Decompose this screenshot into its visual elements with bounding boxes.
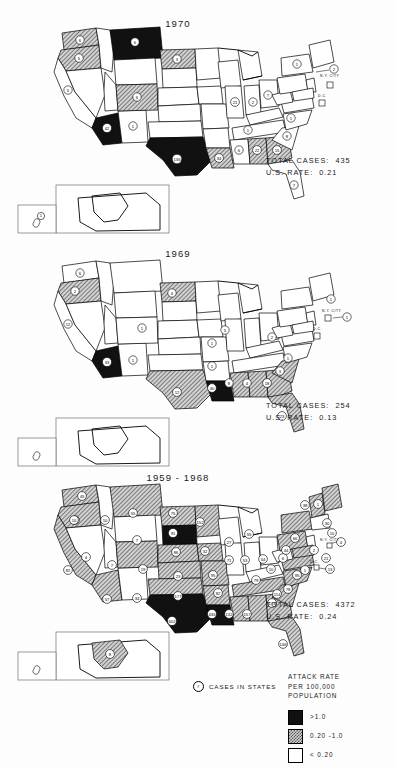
svg-text:79: 79 (254, 578, 259, 583)
svg-text:45: 45 (80, 494, 85, 499)
bubble-NV: 4 (82, 553, 91, 562)
bubble-NYC: 2 (330, 65, 338, 73)
legend-swatch-mid (288, 729, 303, 744)
dc-label: D.C. (318, 94, 327, 98)
bubble-AZ: 42 (102, 123, 111, 132)
bubble-AR: 82 (214, 589, 223, 598)
bubble-MN: 5 (221, 326, 229, 334)
bubble-NM: 1 (129, 122, 137, 130)
bubble-ID-marker: 10 (101, 516, 110, 525)
bubble-PA: 44 (282, 546, 291, 555)
svg-text:136: 136 (174, 157, 182, 162)
svg-text:177: 177 (175, 594, 183, 599)
inset-alaska-hawaii-1959-1968 (18, 632, 169, 680)
svg-text:12: 12 (175, 390, 180, 395)
stats-1959-1968: TOTAL CASES: 4372 U.S. RATE: 0.24 (266, 599, 356, 623)
svg-text:10: 10 (103, 518, 108, 523)
nyc-label: N.Y. CITY (320, 538, 340, 542)
bubble-VA: 95 (293, 571, 302, 580)
bubble-AK: 8 (106, 650, 115, 659)
bubble-TN: 1 (244, 126, 252, 134)
bubble-ME: 1 (314, 500, 323, 509)
inset-alaska-hawaii-1969 (18, 418, 169, 466)
svg-text:436: 436 (209, 612, 217, 617)
bubble-UT: 1 (138, 324, 146, 332)
map-panel-1969: 1969 (0, 240, 396, 462)
bubble-ND: 4 (168, 289, 176, 297)
cases-key-label: CASES IN STATES (209, 683, 276, 690)
attack-rate-legend: ATTACK RATE PER 100,000 POPULATION >1.0 … (288, 672, 343, 765)
bubble-WV: 6 (279, 554, 288, 563)
bubble-UT: 7 (108, 561, 117, 570)
bubble-SC: 3 (276, 367, 284, 375)
bubble-MN: 152 (196, 518, 205, 527)
bubble-OH: 2 (268, 333, 276, 341)
bubble-LA: 40 (208, 384, 217, 393)
nyc-label: N.Y. CITY (322, 309, 342, 313)
bubble-OR: 6 (76, 269, 84, 277)
svg-text:42: 42 (105, 126, 110, 131)
state-IA (197, 319, 223, 337)
bubble-IDlabel: 10 (70, 516, 79, 525)
state-AL (248, 595, 268, 621)
bubble-IA: 1 (208, 339, 216, 347)
state-MI (238, 50, 262, 80)
svg-text:23: 23 (176, 574, 181, 579)
bubble-NJ: 2 (310, 546, 319, 555)
state-IL (225, 319, 244, 351)
state-WY (114, 291, 157, 318)
bubble-CA: 5 (64, 86, 72, 94)
svg-text:66: 66 (293, 536, 298, 541)
bubble-NYC: 1 (343, 313, 351, 321)
legend-swatch-high (288, 710, 303, 725)
bubble-SD: 91 (168, 528, 177, 537)
svg-text:146: 146 (280, 642, 288, 647)
bubble-GA: 18 (263, 379, 272, 388)
nyc-box (325, 315, 331, 321)
figure-page: 1970 (0, 0, 396, 767)
dc-label: D.C. (310, 560, 319, 564)
state-WY (114, 58, 157, 85)
us-map-1970: 6 5 5 6 3 6 42 1 136 34 21 2 7 1 6 22 15… (0, 0, 396, 240)
svg-text:95: 95 (295, 573, 300, 578)
state-NE (158, 320, 199, 339)
bubble-MI: 55 (245, 530, 254, 539)
legend-label-high: >1.0 (310, 712, 326, 722)
bubble-TX: 136 (172, 154, 182, 164)
nyc-box (327, 82, 333, 88)
bubble-VT: 38 (301, 501, 310, 510)
bubble-NE: 86 (172, 548, 181, 557)
bubble-LA: 34 (215, 154, 224, 163)
svg-text:95: 95 (211, 573, 216, 578)
state-AR (203, 361, 230, 381)
svg-text:57: 57 (105, 597, 110, 602)
svg-text:32: 32 (203, 549, 208, 554)
svg-text:157: 157 (244, 612, 252, 617)
svg-text:55: 55 (131, 511, 136, 516)
state-ND (160, 282, 196, 302)
svg-text:82: 82 (66, 568, 71, 573)
svg-text:114: 114 (274, 592, 281, 597)
total-cases-1970: TOTAL CASES: 435 (266, 155, 351, 167)
inset-alaska-hawaii-1970 (18, 185, 169, 233)
nyc-box (327, 543, 332, 548)
svg-text:22: 22 (255, 148, 260, 153)
bubble-MA: 10 (328, 529, 337, 538)
bubble-LA: 436 (207, 609, 216, 618)
legend-title: ATTACK RATE PER 100,000 POPULATION (288, 672, 343, 701)
bubble-MO: 95 (209, 571, 218, 580)
dc-box (314, 333, 320, 339)
bubble-SC-marker: 114 (273, 590, 282, 599)
legend-row-high: >1.0 (288, 708, 343, 727)
bubble-TN: 79 (252, 576, 261, 585)
state-WI (218, 60, 241, 88)
bubble-MS: 8 (225, 379, 233, 387)
us-map-1969: 6 2 12 4 1 33 1 12 40 5 1 1 2 8 4 18 23 … (0, 240, 396, 462)
state-OK (148, 354, 203, 371)
bubble-NH: 30 (323, 519, 332, 528)
svg-text:10: 10 (269, 567, 274, 572)
bubble-IN: 53 (241, 556, 250, 565)
svg-text:33: 33 (105, 360, 110, 365)
bubble-ND: 75 (169, 509, 178, 518)
legend-row-mid: 0.20 -1.0 (288, 727, 343, 746)
